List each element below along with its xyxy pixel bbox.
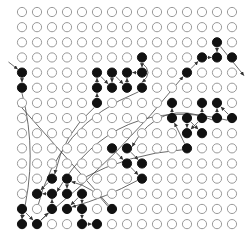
empty-node (17, 129, 26, 138)
directed-edge (71, 182, 107, 206)
filled-node (47, 204, 56, 213)
empty-node (152, 53, 161, 62)
empty-node (152, 174, 161, 183)
empty-node (122, 98, 131, 107)
filled-node (122, 144, 131, 153)
filled-node (182, 68, 191, 77)
empty-node (77, 68, 86, 77)
filled-node (197, 113, 206, 122)
empty-node (17, 189, 26, 198)
empty-node (197, 174, 206, 183)
empty-node (197, 68, 206, 77)
empty-node (227, 23, 236, 32)
empty-node (92, 113, 101, 122)
empty-node (107, 129, 116, 138)
empty-node (167, 23, 176, 32)
empty-node (122, 23, 131, 32)
empty-node (77, 159, 86, 168)
empty-node (122, 189, 131, 198)
filled-node (62, 189, 71, 198)
empty-node (47, 220, 56, 229)
empty-node (227, 83, 236, 92)
filled-node (77, 204, 86, 213)
empty-node (182, 220, 191, 229)
empty-node (47, 113, 56, 122)
filled-node (92, 68, 101, 77)
empty-node (47, 159, 56, 168)
empty-node (17, 38, 26, 47)
empty-node (17, 7, 26, 16)
filled-node (197, 98, 206, 107)
empty-node (182, 189, 191, 198)
empty-node (32, 113, 41, 122)
empty-node (122, 174, 131, 183)
empty-node (182, 23, 191, 32)
empty-node (62, 68, 71, 77)
empty-node (212, 159, 221, 168)
empty-node (227, 98, 236, 107)
empty-node (227, 68, 236, 77)
empty-node (152, 38, 161, 47)
empty-node (62, 98, 71, 107)
empty-node (77, 174, 86, 183)
empty-node (197, 38, 206, 47)
empty-node (32, 53, 41, 62)
filled-node (77, 220, 86, 229)
empty-node (152, 98, 161, 107)
directed-edge (221, 107, 228, 114)
filled-node (47, 174, 56, 183)
empty-node (92, 159, 101, 168)
empty-node (227, 189, 236, 198)
empty-node (62, 144, 71, 153)
empty-node (197, 220, 206, 229)
directed-edge (9, 62, 18, 69)
filled-node (182, 129, 191, 138)
empty-node (107, 220, 116, 229)
empty-node (197, 159, 206, 168)
empty-node (167, 68, 176, 77)
empty-node (227, 144, 236, 153)
empty-node (227, 220, 236, 229)
empty-node (212, 68, 221, 77)
empty-node (227, 159, 236, 168)
nodes-layer (17, 7, 236, 228)
empty-node (197, 189, 206, 198)
empty-node (152, 189, 161, 198)
empty-node (92, 53, 101, 62)
empty-node (47, 38, 56, 47)
empty-node (47, 129, 56, 138)
empty-node (227, 204, 236, 213)
grid-graph-diagram (0, 0, 247, 242)
empty-node (92, 38, 101, 47)
filled-node (47, 189, 56, 198)
empty-node (227, 38, 236, 47)
empty-node (212, 129, 221, 138)
empty-node (167, 144, 176, 153)
empty-node (92, 189, 101, 198)
empty-node (92, 129, 101, 138)
empty-node (122, 53, 131, 62)
filled-node (137, 68, 146, 77)
empty-node (62, 220, 71, 229)
empty-node (47, 68, 56, 77)
empty-node (137, 23, 146, 32)
empty-node (77, 23, 86, 32)
empty-node (47, 83, 56, 92)
empty-node (167, 220, 176, 229)
empty-node (62, 159, 71, 168)
empty-node (62, 23, 71, 32)
empty-node (197, 23, 206, 32)
filled-node (107, 83, 116, 92)
empty-node (212, 23, 221, 32)
empty-node (167, 53, 176, 62)
empty-node (47, 7, 56, 16)
empty-node (17, 174, 26, 183)
empty-node (152, 159, 161, 168)
empty-node (77, 7, 86, 16)
filled-node (122, 159, 131, 168)
filled-node (62, 204, 71, 213)
empty-node (197, 83, 206, 92)
empty-node (152, 220, 161, 229)
filled-node (92, 98, 101, 107)
empty-node (227, 174, 236, 183)
